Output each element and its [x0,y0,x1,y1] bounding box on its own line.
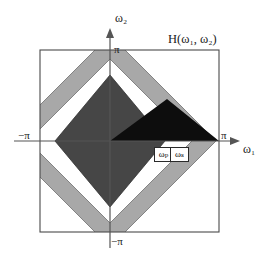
frequency-plane-plot [0,0,271,274]
frequency-response-figure: H(ω₁, ω₂) ω₂ ω₁ π −π −π π ωₚ ωₛ [0,0,271,274]
y-axis-tick-neg-pi: −π [111,236,123,247]
y-axis-tick-pi: π [114,44,120,55]
x-axis-tick-neg-pi: −π [18,130,30,141]
x-axis-label: ω₁ [243,143,255,155]
y-axis-label: ω₂ [115,12,127,24]
figure-title: H(ω₁, ω₂) [168,33,217,46]
stopband-cutoff-label: ωₛ [170,147,189,162]
x-axis-tick-pi: π [221,130,227,141]
